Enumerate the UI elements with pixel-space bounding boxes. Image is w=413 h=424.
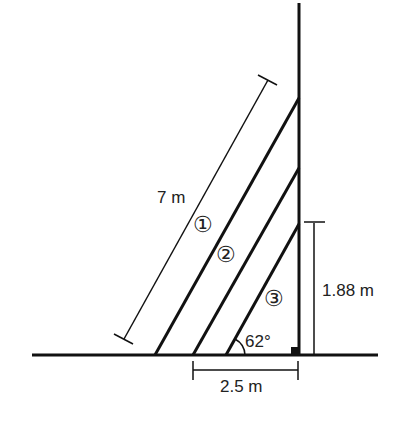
- length-dimension: [114, 75, 277, 344]
- ladder-1-label: ①: [193, 212, 213, 237]
- base-distance-label: 2.5 m: [220, 377, 263, 396]
- ladder-3-label: ③: [264, 286, 284, 311]
- ladder-2-label: ②: [216, 242, 236, 267]
- ladder-1: [155, 98, 299, 355]
- height-label: 1.88 m: [322, 281, 374, 300]
- angle-arc: [235, 339, 245, 355]
- angle-label: 62°: [245, 332, 271, 351]
- ladder-diagram: 7 m 1.88 m 2.5 m 62° ① ② ③: [0, 0, 413, 424]
- right-angle-marker: [291, 347, 298, 354]
- ladder-length-label: 7 m: [157, 188, 185, 207]
